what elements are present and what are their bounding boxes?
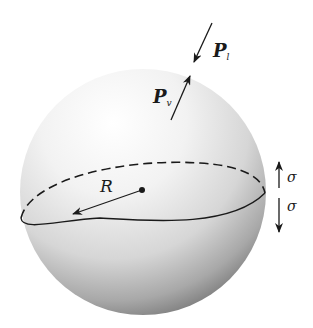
sphere-diagram: Pl Pv R σ σ <box>0 0 313 328</box>
pressure-outer-symbol: P <box>213 40 227 61</box>
pressure-inner-symbol: P <box>153 86 167 107</box>
pressure-outer-arrow <box>194 23 212 62</box>
diagram-graphics <box>0 0 313 328</box>
pressure-outer-label: Pl <box>213 40 229 61</box>
pressure-inner-subscript: v <box>167 98 172 108</box>
pressure-outer-subscript: l <box>227 52 230 62</box>
radius-label: R <box>100 176 113 196</box>
surface-tension-up-label: σ <box>287 169 297 185</box>
surface-tension-down-label: σ <box>287 198 297 214</box>
pressure-inner-label: Pv <box>153 86 172 107</box>
